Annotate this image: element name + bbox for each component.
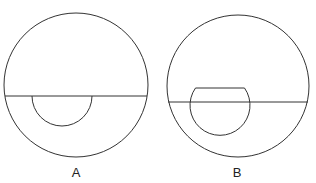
figure-a: A <box>4 13 148 180</box>
diagram: A B <box>0 0 316 183</box>
label-b: B <box>233 165 242 180</box>
outer-circle-a <box>4 13 148 157</box>
label-a: A <box>72 165 81 180</box>
figure-b: B <box>167 15 309 180</box>
outer-circle-b <box>167 15 309 157</box>
inner-semicircle-a <box>32 96 92 126</box>
inner-truncated-circle-b <box>190 88 250 135</box>
